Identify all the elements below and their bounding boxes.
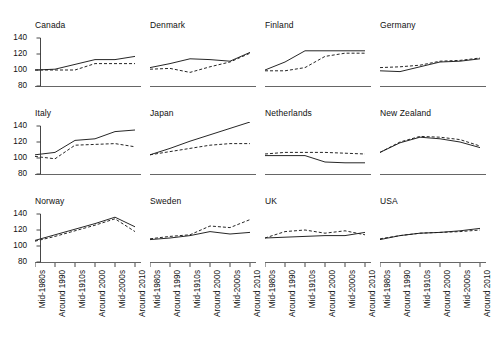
x-tick-label: Around 1990 — [403, 270, 412, 317]
panel-title: Germany — [380, 20, 416, 30]
x-tick-label: Mid-2000s — [118, 270, 127, 308]
series-line-dashed — [380, 230, 480, 239]
y-tick-label: 140 — [1, 121, 27, 130]
x-tick-label: Mid-1980s — [268, 270, 277, 308]
x-tick-label: Mid-1910s — [78, 270, 87, 308]
x-tick-label: Around 1990 — [173, 270, 182, 317]
plot-area — [35, 34, 143, 96]
panel-title: New Zealand — [380, 108, 431, 118]
series-line-dashed — [380, 136, 480, 152]
y-axis-1 — [34, 122, 42, 188]
x-tick-label: Mid-2000s — [463, 270, 472, 308]
x-tick-label: Around 1990 — [288, 270, 297, 317]
y-axis-0 — [34, 34, 42, 100]
x-tick-label: Mid-2000s — [348, 270, 357, 308]
plot-area — [265, 34, 373, 96]
x-tick-label: Mid-1910s — [308, 270, 317, 308]
x-tick-label: Mid-1980s — [383, 270, 392, 308]
x-tick-label: Around 1990 — [58, 270, 67, 317]
series-line-dashed — [380, 58, 480, 68]
x-tick-label: Around 2000 — [443, 270, 452, 317]
series-line-dashed — [35, 219, 135, 241]
plot-area — [150, 122, 258, 184]
x-tick-label: Mid-2000s — [233, 270, 242, 308]
x-tick-label: Around 2010 — [483, 270, 492, 317]
x-tick-label: Around 2010 — [138, 270, 147, 317]
plot-area — [265, 122, 373, 184]
x-tick-label: Around 2000 — [328, 270, 337, 317]
plot-area — [380, 122, 488, 184]
series-line-solid — [150, 232, 250, 240]
panel-title: Japan — [150, 108, 174, 118]
series-line-solid — [35, 130, 135, 155]
y-tick-label: 140 — [1, 33, 27, 42]
plot-area — [380, 34, 488, 96]
series-line-solid — [265, 51, 365, 70]
series-line-dashed — [35, 144, 135, 159]
series-line-solid — [35, 217, 135, 240]
series-line-solid — [265, 156, 365, 163]
series-line-dashed — [265, 152, 365, 154]
x-tick-label: Mid-1980s — [38, 270, 47, 308]
series-line-dashed — [150, 220, 250, 239]
x-tick-label: Around 2000 — [213, 270, 222, 317]
x-tick-label: Around 2010 — [253, 270, 262, 317]
x-tick-label: Mid-1980s — [153, 270, 162, 308]
y-tick-label: 100 — [1, 241, 27, 250]
panel-title: USA — [380, 196, 398, 206]
y-tick-label: 80 — [1, 81, 27, 90]
y-tick-label: 80 — [1, 257, 27, 266]
series-line-solid — [380, 228, 480, 239]
y-tick-label: 80 — [1, 169, 27, 178]
panel-title: Netherlands — [265, 108, 312, 118]
panel-title: Italy — [35, 108, 51, 118]
x-tick-label: Around 2000 — [98, 270, 107, 317]
series-line-dashed — [150, 144, 250, 155]
panel-title: Canada — [35, 20, 65, 30]
series-line-dashed — [150, 53, 250, 72]
y-tick-label: 140 — [1, 209, 27, 218]
x-tick-label: Mid-1910s — [193, 270, 202, 308]
y-tick-label: 120 — [1, 49, 27, 58]
x-tick-label: Around 2010 — [368, 270, 377, 317]
series-line-solid — [150, 122, 250, 155]
plot-area — [35, 122, 143, 184]
y-tick-label: 100 — [1, 153, 27, 162]
panel-grid: CanadaDenmarkFinlandGermanyItalyJapanNet… — [0, 0, 501, 282]
panel-title: Sweden — [150, 196, 181, 206]
y-tick-label: 100 — [1, 65, 27, 74]
y-tick-label: 120 — [1, 137, 27, 146]
panel-title: UK — [265, 196, 277, 206]
y-tick-label: 120 — [1, 225, 27, 234]
small-multiples-figure: CanadaDenmarkFinlandGermanyItalyJapanNet… — [0, 0, 501, 354]
x-tick-label: Mid-1910s — [423, 270, 432, 308]
series-line-dashed — [265, 230, 365, 238]
series-line-dashed — [265, 53, 365, 71]
plot-area — [150, 34, 258, 96]
panel-title: Norway — [35, 196, 64, 206]
panel-title: Finland — [265, 20, 294, 30]
panel-title: Denmark — [150, 20, 185, 30]
series-line-solid — [380, 59, 480, 72]
